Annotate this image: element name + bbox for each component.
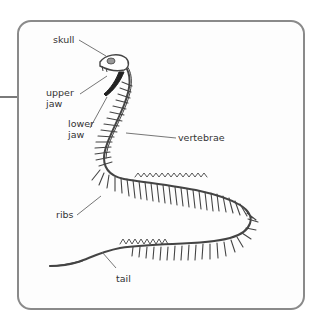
lower-jaw-graphic bbox=[104, 72, 124, 96]
label-vertebrae: vertebrae bbox=[178, 132, 225, 143]
label-ribs: ribs bbox=[56, 209, 74, 220]
snake-skeleton-illustration bbox=[0, 0, 327, 327]
label-skull: skull bbox=[53, 34, 74, 45]
ribs-graphic bbox=[92, 82, 258, 260]
label-upper-jaw-line2: jaw bbox=[46, 98, 62, 109]
label-tail: tail bbox=[116, 273, 131, 284]
spine-graphic bbox=[50, 66, 251, 266]
label-lower-jaw-line1: lower bbox=[68, 118, 94, 129]
leader-lines bbox=[77, 40, 176, 268]
label-upper-jaw-line1: upper bbox=[46, 87, 74, 98]
label-lower-jaw-line2: jaw bbox=[68, 129, 84, 140]
